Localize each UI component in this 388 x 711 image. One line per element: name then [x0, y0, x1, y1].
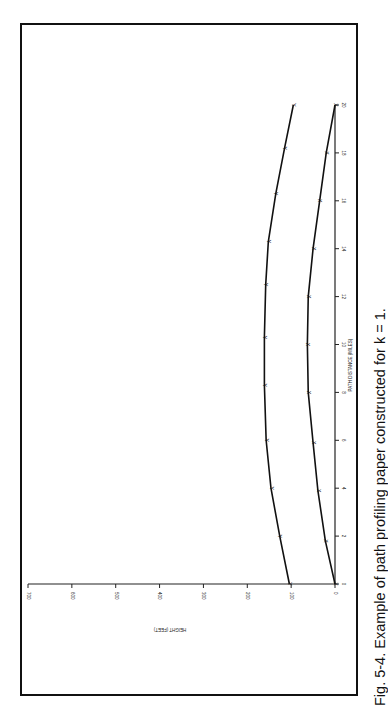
data-point-marker: X: [324, 151, 330, 155]
data-point-marker: Y: [291, 103, 297, 107]
distance-tick-label: 0: [341, 583, 346, 586]
height-tick-label: 500: [114, 592, 119, 600]
data-point-marker: X: [333, 103, 339, 107]
data-point-marker: X: [317, 199, 323, 203]
distance-tick-label: 18: [341, 150, 346, 156]
chart-axes: 010020030040050060070002468101214161820H…: [26, 102, 353, 632]
distance-tick-label: 2: [341, 535, 346, 538]
height-axis-title: HEIGHT (FEET): [153, 627, 186, 632]
distance-axis-title: PATH DISTANCE (MILES): [348, 338, 353, 391]
height-tick-label: 300: [201, 592, 206, 600]
height-tick-label: 200: [245, 592, 250, 600]
data-point-marker: Y: [287, 582, 293, 586]
data-point-marker: Y: [273, 192, 279, 196]
height-tick-label: 600: [70, 592, 75, 600]
upper-curve-line: [264, 105, 293, 584]
distance-tick-label: 12: [341, 294, 346, 300]
figure-caption: Fig. 5-4. Example of path profiling pape…: [372, 308, 388, 706]
data-point-marker: Y: [282, 146, 288, 150]
distance-tick-label: 20: [341, 102, 346, 108]
chart-series: YYYYYYYYYYYXXXXXXXXXXX: [262, 103, 339, 586]
distance-tick-label: 8: [341, 391, 346, 394]
distance-tick-label: 14: [341, 246, 346, 252]
height-tick-label: 700: [26, 592, 31, 600]
height-tick-label: 100: [289, 592, 294, 600]
distance-tick-label: 16: [341, 198, 346, 204]
distance-tick-label: 4: [341, 487, 346, 490]
distance-tick-label: 10: [341, 342, 346, 348]
height-tick-label: 400: [157, 592, 162, 600]
data-point-marker: X: [311, 247, 317, 251]
distance-tick-label: 6: [341, 439, 346, 442]
height-tick-label: 0: [333, 592, 338, 595]
data-point-marker: X: [333, 582, 339, 586]
